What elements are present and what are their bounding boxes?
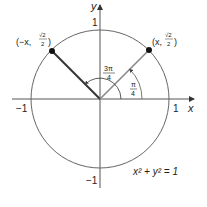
y-axis-label: y — [90, 0, 98, 12]
radius-3pi-4 — [52, 51, 100, 99]
x-tick-1: 1 — [173, 103, 179, 114]
angle-3pi-4-den: 4 — [107, 74, 111, 81]
x-tick-neg1: −1 — [16, 103, 28, 114]
point-p-label-suffix: ) — [174, 37, 177, 47]
point-q-label-suffix: ) — [48, 37, 51, 47]
point-q — [49, 48, 55, 54]
point-p — [146, 47, 152, 53]
point-q-num: √2 — [39, 32, 46, 38]
point-q-label-prefix: (−x, — [16, 37, 31, 47]
circle-equation: x² + y² = 1 — [132, 166, 178, 177]
point-p-num: √2 — [165, 32, 172, 38]
point-q-den: 2 — [41, 41, 45, 47]
angle-3pi-4-num: 3π — [104, 65, 113, 72]
y-tick-1: 1 — [92, 17, 98, 28]
y-tick-neg1: −1 — [86, 175, 98, 186]
angle-pi-4-den: 4 — [131, 90, 135, 97]
unit-circle-diagram: −1 1 1 −1 x y (−x, √2 2 ) (x, √2 2 ) 3π … — [0, 0, 207, 207]
x-axis-label: x — [187, 102, 194, 114]
point-p-label-prefix: (x, — [152, 37, 162, 47]
angle-pi-4-num: π — [131, 81, 136, 88]
point-p-den: 2 — [167, 41, 171, 47]
